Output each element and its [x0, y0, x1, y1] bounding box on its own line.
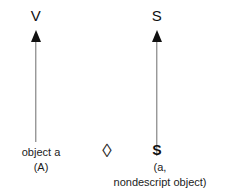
right-arrow-head-label: S	[152, 8, 162, 23]
left-arrow-head-label: V	[31, 8, 41, 23]
left-arrow-shaft	[35, 38, 36, 142]
right-arrow-base-symbol: S	[152, 143, 161, 157]
right-arrow-caption-secondary: nondescript object)	[114, 176, 207, 189]
lozenge-icon: ◊	[102, 141, 111, 160]
left-arrow	[31, 30, 41, 142]
left-arrow-caption-primary: object a	[22, 146, 61, 159]
diagram-canvas: V object a (A) ◊ S S (a, nondescript obj…	[0, 0, 232, 196]
right-arrow	[152, 30, 162, 156]
right-arrow-shaft	[156, 38, 157, 156]
right-arrow-head-icon	[152, 30, 162, 42]
left-arrow-caption-secondary: (A)	[34, 161, 49, 174]
left-arrow-head-icon	[31, 30, 41, 42]
right-arrow-caption-primary: (a,	[154, 161, 167, 174]
